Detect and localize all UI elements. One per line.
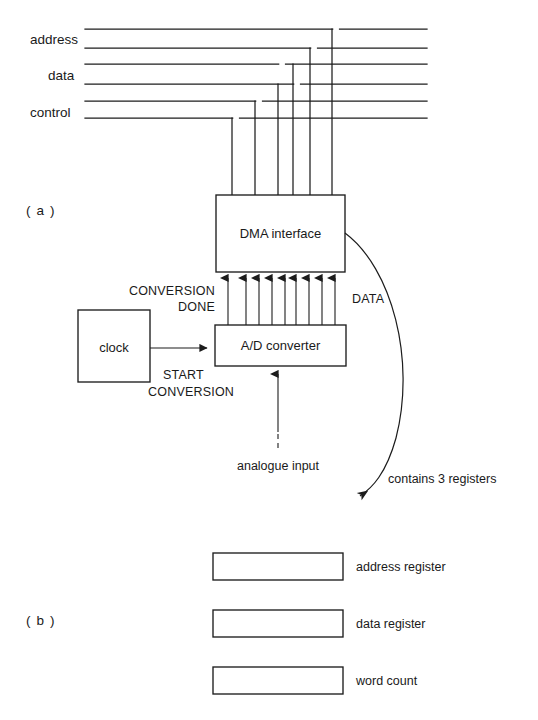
- register-label-data: data register: [356, 617, 425, 631]
- ad-converter-label: A/D converter: [241, 338, 321, 353]
- bus-label-control: control: [30, 105, 71, 120]
- contains-registers-pointer: [345, 233, 403, 496]
- register-label-address: address register: [356, 560, 446, 574]
- data-bus-arrows: [246, 278, 335, 325]
- start-conversion-label-line1: START: [163, 368, 204, 382]
- conversion-done-label-line1: CONVERSION: [129, 284, 215, 298]
- bus-label-address: address: [30, 32, 78, 47]
- analogue-input-label: analogue input: [237, 459, 320, 473]
- figure-canvas: address data control DMA interface CONVE…: [0, 0, 538, 720]
- contains-registers-label: contains 3 registers: [388, 472, 496, 486]
- dma-interface-label: DMA interface: [240, 226, 322, 241]
- clock-label: clock: [99, 340, 129, 355]
- register-box-address[interactable]: [213, 553, 343, 580]
- conversion-done-label-line2: DONE: [178, 300, 215, 314]
- register-list: address register data register word coun…: [213, 553, 446, 694]
- start-conversion-label-line2: CONVERSION: [148, 385, 234, 399]
- bus-label-data: data: [48, 68, 75, 83]
- bus-drop-group: [232, 29, 332, 195]
- bus-corner-masks: [233, 26, 339, 122]
- register-label-word-count: word count: [355, 674, 418, 688]
- panel-label-a: ( a ): [26, 203, 56, 218]
- panel-label-b: ( b ): [26, 613, 56, 628]
- register-box-word-count[interactable]: [213, 667, 343, 694]
- data-bus-label: DATA: [352, 292, 385, 306]
- register-box-data[interactable]: [213, 610, 343, 637]
- bus-lines-group: [85, 29, 427, 118]
- diagram-svg: address data control DMA interface CONVE…: [0, 0, 538, 720]
